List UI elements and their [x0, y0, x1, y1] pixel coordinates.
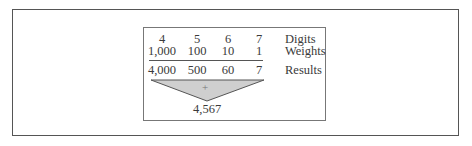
result-thousands: 4,000 [142, 64, 182, 77]
label-results: Results [285, 64, 322, 77]
weight-thousands: 1,000 [142, 45, 182, 58]
plus-operator: + [202, 81, 208, 94]
result-ones: 7 [239, 64, 279, 77]
weight-ones: 1 [239, 45, 279, 58]
label-weights: Weights [285, 45, 326, 58]
multiplication-rule [149, 60, 263, 61]
sum-value: 4,567 [193, 103, 221, 116]
